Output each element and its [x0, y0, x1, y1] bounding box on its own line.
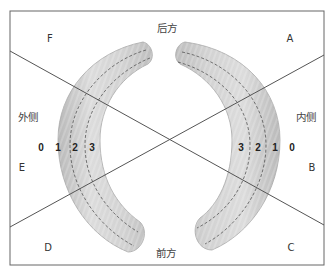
medial-zone-1: 1: [272, 143, 278, 153]
medial-zone-0: 0: [289, 143, 295, 153]
lateral-zone-0: 0: [38, 143, 44, 153]
medial-label: 内侧: [296, 112, 316, 123]
lateral-zone-1: 1: [55, 143, 61, 153]
zone-label-F: F: [47, 34, 53, 44]
medial-zone-2: 2: [255, 143, 261, 153]
lateral-zone-2: 2: [72, 143, 78, 153]
zone-label-D: D: [44, 243, 52, 253]
posterior-label: 后方: [157, 23, 177, 34]
lateral-zone-3: 3: [89, 143, 95, 153]
zone-label-C: C: [288, 243, 295, 253]
zone-label-B: B: [309, 163, 316, 173]
anterior-label: 前方: [156, 248, 176, 259]
meniscus-zone-diagram: 后方 前方 外侧 内侧 F A E B D C 0 1 2 3 3 2 1 0: [0, 0, 334, 275]
lateral-label: 外侧: [18, 112, 38, 123]
zone-label-E: E: [19, 163, 25, 173]
zone-label-A: A: [287, 34, 294, 44]
medial-zone-3: 3: [238, 143, 244, 153]
